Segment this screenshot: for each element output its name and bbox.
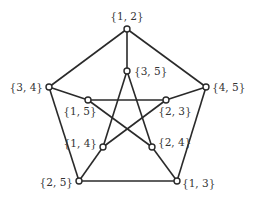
node-24	[149, 144, 155, 150]
node-label-15: {1, 5}	[63, 105, 96, 118]
edge-12-45	[127, 29, 206, 87]
node-12	[124, 26, 130, 32]
edge-13-24	[152, 147, 177, 181]
edge-45-13	[177, 87, 206, 181]
edge-35-24	[127, 71, 152, 147]
node-13	[174, 178, 180, 184]
node-label-13: {1, 3}	[182, 177, 215, 190]
node-15	[85, 97, 91, 103]
edge-12-34	[49, 29, 127, 87]
node-23	[163, 97, 169, 103]
node-label-25: {2, 5}	[40, 176, 73, 189]
edge-15-24	[88, 100, 152, 147]
node-label-45: {4, 5}	[212, 81, 245, 94]
node-label-12: {1, 2}	[110, 10, 143, 23]
node-label-24: {2, 4}	[158, 136, 191, 149]
edge-25-14	[79, 147, 103, 181]
node-25	[76, 178, 82, 184]
edge-45-23	[166, 87, 206, 100]
petersen-graph: {1, 2}{3, 5}{3, 4}{4, 5}{1, 5}{2, 3}{1, …	[0, 0, 254, 201]
node-label-23: {2, 3}	[158, 105, 191, 118]
node-34	[46, 84, 52, 90]
node-label-14: {1, 4}	[64, 137, 97, 150]
edge-35-14	[103, 71, 127, 147]
edge-34-25	[49, 87, 79, 181]
node-35	[124, 68, 130, 74]
edge-23-14	[103, 100, 166, 147]
node-14	[100, 144, 106, 150]
edge-34-15	[49, 87, 88, 100]
node-45	[203, 84, 209, 90]
node-label-35: {3, 5}	[134, 65, 167, 78]
node-label-34: {3, 4}	[10, 81, 43, 94]
